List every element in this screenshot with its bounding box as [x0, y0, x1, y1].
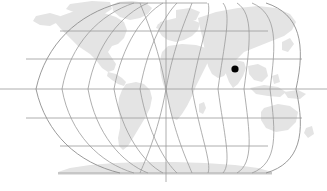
japan-landmass — [282, 38, 294, 52]
madagascar-landmass — [199, 102, 206, 114]
south-america-landmass — [118, 82, 152, 150]
indonesia-landmass — [250, 85, 286, 97]
marker-layer — [231, 65, 238, 72]
philippines-landmass — [272, 74, 280, 84]
north-america-landmass — [55, 11, 127, 72]
new-guinea-landmass — [284, 90, 306, 99]
alaska-landmass — [33, 13, 60, 26]
new-zealand-landmass — [304, 126, 314, 138]
india-landmass — [224, 60, 246, 88]
location-marker-dot[interactable] — [231, 65, 238, 72]
world-map-canvas — [0, 0, 327, 191]
central-america-landmass — [107, 72, 126, 86]
world-map-figure — [0, 0, 327, 191]
southeast-asia-landmass — [248, 64, 268, 82]
